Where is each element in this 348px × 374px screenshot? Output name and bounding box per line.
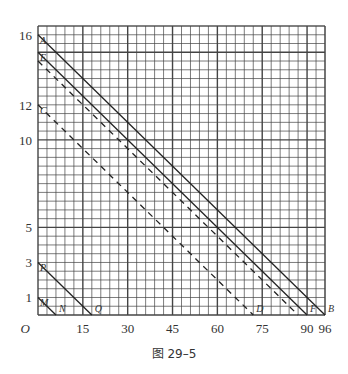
svg-text:30: 30	[121, 321, 134, 336]
grid	[38, 26, 325, 315]
svg-text:C: C	[40, 105, 47, 116]
svg-text:P: P	[39, 262, 46, 273]
svg-text:B: B	[328, 303, 334, 314]
svg-text:3: 3	[26, 255, 33, 270]
budget-line-chart: 15304560759096135101216O ABEFCDPQMN	[0, 0, 348, 340]
line-ef-dashed	[38, 61, 298, 315]
svg-text:1: 1	[26, 290, 33, 305]
svg-text:96: 96	[319, 321, 333, 336]
svg-text:M: M	[39, 297, 49, 308]
svg-text:A: A	[39, 35, 47, 46]
svg-text:45: 45	[166, 321, 179, 336]
svg-text:15: 15	[76, 321, 89, 336]
svg-text:75: 75	[256, 321, 269, 336]
svg-text:90: 90	[301, 321, 314, 336]
svg-text:O: O	[21, 321, 31, 336]
svg-text:5: 5	[26, 220, 33, 235]
svg-text:12: 12	[19, 98, 32, 113]
svg-text:10: 10	[19, 133, 32, 148]
svg-text:N: N	[58, 303, 67, 314]
svg-text:E: E	[39, 52, 46, 63]
svg-text:F: F	[309, 303, 317, 314]
figure-caption: 图 29–5	[0, 344, 348, 361]
svg-text:Q: Q	[95, 303, 103, 314]
svg-text:16: 16	[19, 28, 33, 43]
svg-text:60: 60	[211, 321, 224, 336]
svg-text:D: D	[255, 303, 264, 314]
